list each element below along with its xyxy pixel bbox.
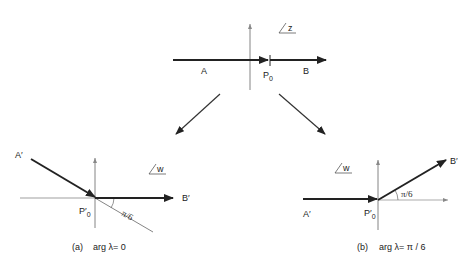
conformal-mapping-diagram: z A P0 B w A′ B′ P′0 π/6 (a) arg λ= 0 <box>0 0 468 269</box>
b-w-plane-label-box: w <box>335 163 352 173</box>
w-plane-panel-b: w A′ B′ P′0 π/6 (b) arg λ= π / 6 <box>303 156 458 252</box>
a-angle-arc <box>111 198 114 208</box>
b-angle-label: π/6 <box>401 189 413 199</box>
b-angle-arc <box>395 190 398 200</box>
w-plane-panel-a: w A′ B′ P′0 π/6 (a) arg λ= 0 <box>15 150 190 252</box>
a-caption-tag: (a) <box>72 242 83 252</box>
a-point-p0-label: P′0 <box>79 206 91 218</box>
mapping-arrow-left <box>176 94 220 134</box>
b-w-plane-label: w <box>342 163 350 173</box>
a-point-a-label: A′ <box>15 150 23 160</box>
a-segment-a-p0 <box>31 159 95 197</box>
point-p0-label: P0 <box>263 70 273 82</box>
b-point-b-label: B′ <box>450 156 458 166</box>
b-point-a-label: A′ <box>303 209 311 219</box>
z-plane-label: z <box>288 23 293 33</box>
point-a-label: A <box>201 66 207 76</box>
a-w-plane-label-box: w <box>149 164 166 174</box>
a-point-b-label: B′ <box>182 193 190 203</box>
b-caption-text: arg λ= π / 6 <box>379 242 425 252</box>
z-plane-panel: z A P0 B <box>173 23 326 90</box>
b-caption-tag: (b) <box>357 242 368 252</box>
mapping-arrow-right <box>279 94 325 134</box>
point-b-label: B <box>303 66 309 76</box>
b-point-p0-label: P′0 <box>364 208 376 220</box>
a-w-plane-label: w <box>156 164 164 174</box>
z-plane-label-box: z <box>279 23 296 33</box>
a-caption-text: arg λ= 0 <box>93 242 126 252</box>
